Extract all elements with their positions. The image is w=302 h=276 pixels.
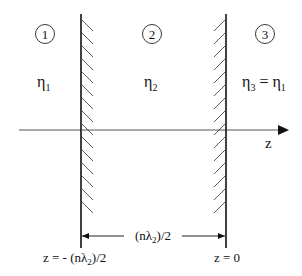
svg-text:1: 1 (42, 27, 49, 42)
left-mirror (81, 14, 93, 248)
z-axis-arrow-icon (278, 125, 289, 135)
diagram-canvas: z (0, 0, 302, 276)
region-2-marker: 2 (143, 25, 162, 44)
svg-text:2: 2 (149, 27, 156, 42)
svg-text:3: 3 (262, 27, 269, 42)
region-1-marker: 1 (36, 25, 55, 44)
right-wall-position-label: z = 0 (214, 250, 240, 265)
right-mirror (214, 14, 226, 248)
z-axis-label: z (265, 135, 272, 151)
region-3-index: η3 = η1 (242, 73, 286, 93)
left-hatching (82, 20, 93, 213)
dimension-indicator: (nλ2)/2 (82, 228, 225, 245)
right-hatching (214, 20, 225, 213)
region-1-index: η1 (37, 73, 50, 93)
left-wall-position-label: z = - (nλ2)/2 (43, 250, 106, 267)
region-2-index: η2 (144, 73, 157, 93)
dimension-label: (nλ2)/2 (135, 228, 171, 245)
region-3-marker: 3 (256, 25, 275, 44)
